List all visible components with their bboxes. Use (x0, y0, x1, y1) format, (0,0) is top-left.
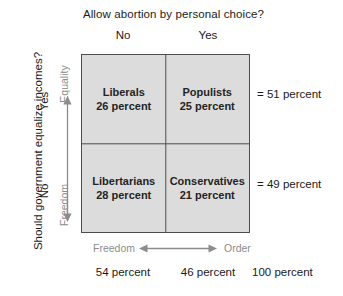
quadrant-liberals-value: 26 percent (96, 99, 151, 113)
quadrant-conservatives-name: Conservatives (170, 174, 245, 188)
column-header-no: No (81, 29, 165, 41)
horizontal-double-arrow-icon (139, 244, 217, 253)
quadrant-populists-value: 25 percent (180, 99, 235, 113)
vertical-double-arrow-icon (63, 96, 72, 222)
quadrant-populists[interactable]: Populists 25 percent (166, 55, 250, 144)
quadrant-populists-name: Populists (182, 85, 232, 99)
row-label-yes: Yes (38, 71, 50, 131)
column-header-yes: Yes (166, 29, 250, 41)
grand-total: 100 percent (252, 266, 313, 278)
quadrant-liberals[interactable]: Liberals 26 percent (82, 55, 166, 144)
quadrant-libertarians-name: Libertarians (92, 174, 155, 188)
quadrant-libertarians[interactable]: Libertarians 28 percent (82, 144, 166, 233)
column-total-no: 54 percent (78, 266, 168, 278)
row-total-top: = 51 percent (257, 88, 321, 100)
quadrant-conservatives[interactable]: Conservatives 21 percent (166, 144, 250, 233)
row-axis-question: Should government equalize incomes? (32, 26, 44, 276)
quadrant-libertarians-value: 28 percent (96, 188, 151, 202)
chart-title: Allow abortion by personal choice? (0, 8, 343, 20)
row-total-bottom: = 49 percent (257, 178, 321, 190)
typology-matrix: Liberals 26 percent Populists 25 percent… (81, 54, 250, 233)
quadrant-liberals-name: Liberals (103, 85, 145, 99)
quadrant-conservatives-value: 21 percent (180, 188, 235, 202)
column-total-yes: 46 percent (163, 266, 253, 278)
row-label-no: No (38, 161, 50, 221)
horizontal-axis-label-freedom: Freedom (83, 242, 135, 254)
horizontal-axis-label-order: Order (224, 242, 276, 254)
matrix-divider-horizontal (82, 143, 249, 144)
